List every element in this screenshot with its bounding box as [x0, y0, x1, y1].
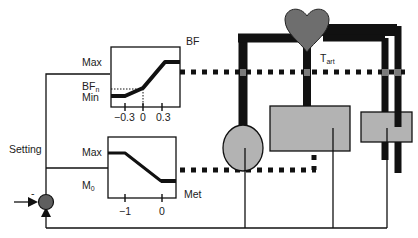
met-tick-0: 0 — [159, 205, 165, 217]
met-tick-neg1: −1 — [119, 205, 131, 217]
bf-tick-03: 0.3 — [156, 111, 171, 123]
heart-icon — [285, 9, 329, 52]
bf-max-label: Max — [82, 56, 103, 68]
thermoregulation-feedback-diagram: Tart Setting - BF Max BFn Min −0.3 0 0. — [0, 0, 418, 238]
met-plot: Max M0 Met −1 0 — [82, 137, 202, 217]
met-max-label: Max — [82, 146, 103, 158]
bf-plot: BF Max BFn Min −0.3 0 0.3 — [82, 35, 199, 123]
setting-lines — [46, 74, 110, 194]
t-art-label: Tart — [320, 52, 335, 65]
circle-organ — [223, 125, 263, 171]
comparator-minus-sign: - — [31, 187, 35, 199]
m0-label: M0 — [82, 179, 95, 192]
comparator-node — [39, 195, 54, 210]
setting-label: Setting — [9, 143, 42, 155]
center-rect-organ — [270, 106, 350, 151]
bf-tick-neg03: −0.3 — [114, 111, 135, 123]
met-xlabel: Met — [184, 188, 202, 200]
bf-min-label: Min — [82, 91, 99, 103]
vessel-junction-markers — [240, 69, 401, 76]
bf-plot-title: BF — [186, 35, 199, 47]
bf-tick-0: 0 — [140, 111, 146, 123]
